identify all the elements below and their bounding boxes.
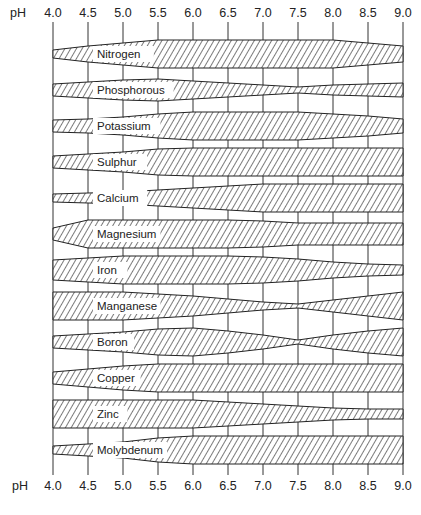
top-tick-label: 4.5 bbox=[79, 6, 96, 20]
top-tick-label: 8.0 bbox=[324, 6, 341, 20]
top-tick-label: 5.0 bbox=[114, 6, 131, 20]
bottom-tick-label: 5.5 bbox=[149, 479, 166, 493]
band-label: Calcium bbox=[97, 192, 139, 204]
top-axis-title: pH bbox=[10, 6, 26, 20]
bottom-tick-label: 6.5 bbox=[219, 479, 236, 493]
bottom-tick-label: 7.0 bbox=[254, 479, 271, 493]
top-tick-label: 8.5 bbox=[359, 6, 376, 20]
top-tick-label: 7.5 bbox=[289, 6, 306, 20]
top-tick-label: 9.0 bbox=[394, 6, 411, 20]
bottom-tick-label: 4.0 bbox=[44, 479, 61, 493]
band-label: Iron bbox=[97, 264, 117, 276]
bottom-tick-label: 5.0 bbox=[114, 479, 131, 493]
band-label: Nitrogen bbox=[97, 48, 140, 60]
top-tick-label: 7.0 bbox=[254, 6, 271, 20]
nutrient-availability-chart: NitrogenPhosphorousPotassiumSulphurCalci… bbox=[0, 0, 421, 515]
bottom-tick-label: 8.5 bbox=[359, 479, 376, 493]
band-label: Sulphur bbox=[97, 156, 137, 168]
band-nitrogen: Nitrogen bbox=[53, 40, 403, 68]
band-label: Zinc bbox=[97, 408, 119, 420]
top-tick-label: 6.0 bbox=[184, 6, 201, 20]
band-calcium: Calcium bbox=[53, 184, 403, 212]
top-tick-label: 5.5 bbox=[149, 6, 166, 20]
bottom-axis-title: pH bbox=[12, 479, 28, 493]
band-molybdenum: Molybdenum bbox=[53, 436, 403, 464]
bottom-tick-label: 9.0 bbox=[394, 479, 411, 493]
bottom-tick-label: 6.0 bbox=[184, 479, 201, 493]
band-label: Magnesium bbox=[97, 228, 156, 240]
band-label: Phosphorous bbox=[97, 84, 165, 96]
band-potassium: Potassium bbox=[53, 112, 403, 140]
band-copper: Copper bbox=[53, 364, 403, 392]
top-axis-labels: pH 4.04.55.05.56.06.57.07.58.08.59.0 bbox=[10, 6, 412, 20]
band-sulphur: Sulphur bbox=[53, 148, 403, 176]
band-magnesium: Magnesium bbox=[53, 220, 403, 248]
band-label: Boron bbox=[97, 336, 128, 348]
band-boron: Boron bbox=[53, 328, 403, 356]
bottom-tick-label: 4.5 bbox=[79, 479, 96, 493]
bottom-tick-label: 8.0 bbox=[324, 479, 341, 493]
bottom-axis-labels: pH 4.04.55.05.56.06.57.07.58.08.59.0 bbox=[12, 479, 412, 493]
top-tick-label: 6.5 bbox=[219, 6, 236, 20]
band-zinc: Zinc bbox=[53, 400, 403, 428]
band-label: Manganese bbox=[97, 300, 157, 312]
band-label: Molybdenum bbox=[97, 444, 163, 456]
top-tick-label: 4.0 bbox=[44, 6, 61, 20]
bottom-tick-label: 7.5 bbox=[289, 479, 306, 493]
band-label: Copper bbox=[97, 372, 135, 384]
band-iron: Iron bbox=[53, 256, 403, 284]
band-label: Potassium bbox=[97, 120, 151, 132]
